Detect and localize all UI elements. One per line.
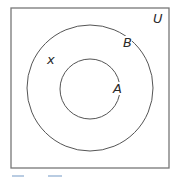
universe-label: U — [153, 11, 163, 26]
caption-fragment — [48, 175, 62, 177]
universe-box — [11, 8, 169, 168]
venn-diagram: U B A x — [0, 0, 178, 179]
set-b-circle — [27, 25, 153, 151]
element-x-label: x — [46, 52, 55, 67]
set-a-circle — [60, 59, 120, 119]
set-b-label: B — [123, 35, 132, 50]
caption-fragment — [12, 175, 24, 177]
set-a-label: A — [112, 81, 122, 96]
